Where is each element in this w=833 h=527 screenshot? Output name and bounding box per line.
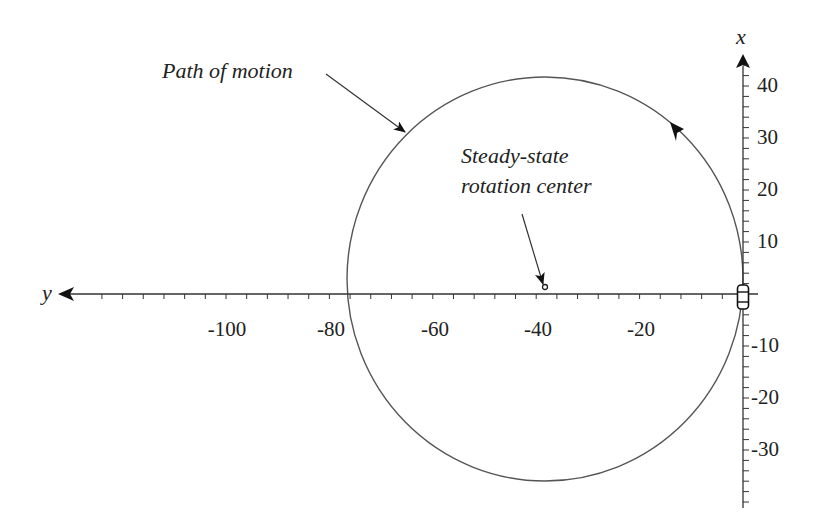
tick-label-40: 40 bbox=[757, 73, 778, 97]
tick-label-neg20: -20 bbox=[751, 385, 779, 409]
tick-label-10: 10 bbox=[757, 229, 778, 253]
path-of-motion-label: Path of motion bbox=[161, 58, 293, 83]
tick-label-neg40: -40 bbox=[524, 317, 552, 341]
diagram-canvas: x y -100 -80 -60 -40 -20 40 30 20 10 -10… bbox=[0, 0, 833, 527]
vehicle-icon bbox=[738, 285, 749, 309]
rotation-center-label-line2: rotation center bbox=[461, 173, 592, 198]
tick-label-30: 30 bbox=[757, 125, 778, 149]
x-axis-label: x bbox=[735, 24, 746, 49]
tick-label-neg10: -10 bbox=[751, 333, 779, 357]
rotation-center-arrow-icon bbox=[522, 214, 543, 284]
tick-label-neg80: -80 bbox=[317, 317, 345, 341]
path-of-motion-circle bbox=[347, 77, 743, 481]
direction-arrow-icon bbox=[670, 122, 684, 141]
tick-label-20: 20 bbox=[757, 177, 778, 201]
path-of-motion-arrow-icon bbox=[326, 74, 405, 132]
tick-label-neg30: -30 bbox=[751, 437, 779, 461]
x-axis-arrow-icon bbox=[736, 54, 750, 68]
x-axis bbox=[736, 54, 750, 508]
tick-label-neg20: -20 bbox=[627, 317, 655, 341]
rotation-center-label-line1: Steady-state bbox=[461, 143, 569, 168]
tick-label-neg100: -100 bbox=[208, 317, 247, 341]
y-axis bbox=[58, 287, 758, 301]
y-axis-label: y bbox=[40, 280, 52, 305]
tick-label-neg60: -60 bbox=[421, 317, 449, 341]
rotation-center-dot bbox=[543, 285, 548, 290]
